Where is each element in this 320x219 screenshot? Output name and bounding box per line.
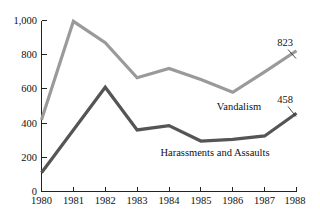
y-axis-label-400: 400 [21,118,37,129]
x-axis-label-1983: 1983 [127,195,148,206]
x-axis-label-1985: 1985 [190,195,211,206]
x-axis-label-1981: 1981 [63,195,84,206]
x-axis-label-1980: 1980 [31,195,52,206]
x-axis-labels: 1980 1981 1982 1983 1984 1985 1986 1987 … [31,195,306,206]
y-axis-label-1000: 1,000 [13,15,37,26]
y-axis-label-600: 600 [21,83,37,94]
y-axis-label-200: 200 [21,152,37,163]
y-axis-labels: 1,000 800 600 400 200 0 [13,15,37,197]
endpoint-annotations: 823 458 [277,37,296,117]
y-axis-label-800: 800 [21,49,37,60]
x-axis-label-1984: 1984 [159,195,181,206]
harassments-line [42,87,297,173]
x-axis-label-1988: 1988 [285,195,306,206]
vandalism-series-label: Vandalism [217,101,261,112]
x-axis-label-1986: 1986 [222,195,243,206]
line-chart: 1,000 800 600 400 200 0 1980 1981 1982 1… [0,0,320,219]
harassments-endpoint-value: 458 [277,94,293,105]
x-axis-label-1987: 1987 [254,195,275,206]
vandalism-endpoint-value: 823 [277,37,293,48]
harassments-series-label: Harassments and Assaults [160,147,269,158]
x-axis-label-1982: 1982 [95,195,116,206]
chart-canvas: 1,000 800 600 400 200 0 1980 1981 1982 1… [0,0,320,219]
